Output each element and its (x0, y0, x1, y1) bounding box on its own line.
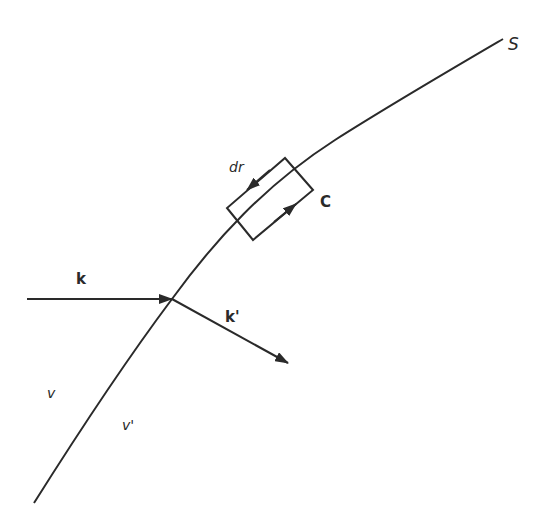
contour-label: C (320, 193, 331, 211)
surface-label: S (508, 34, 519, 54)
medium-right-label: v' (122, 417, 134, 433)
contour-direction-arrow-icon (274, 204, 296, 222)
line-element-label: dr (229, 159, 245, 175)
incident-vector-label: k (76, 270, 87, 288)
diagram-canvas: S C dr k k' v v' (0, 0, 547, 525)
medium-left-label: v (47, 385, 56, 401)
transmitted-vector-label: k' (225, 308, 240, 326)
dr-arrow-icon (247, 170, 270, 190)
surface-curve (34, 39, 503, 503)
